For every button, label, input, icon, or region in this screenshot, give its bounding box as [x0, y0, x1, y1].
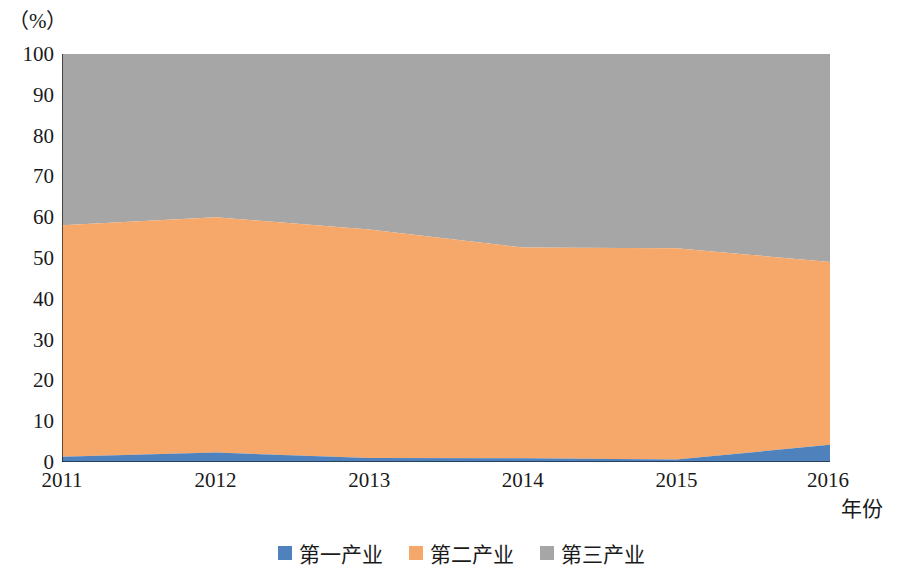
y-tick-90: 90 [33, 84, 54, 105]
x-tick-2011: 2011 [41, 470, 82, 491]
legend-item-first: 第一产业 [278, 538, 383, 568]
y-tick-80: 80 [33, 125, 54, 146]
y-tick-70: 70 [33, 166, 54, 187]
series-second [62, 217, 830, 459]
legend-swatch-icon [540, 546, 554, 560]
legend-swatch-icon [278, 546, 292, 560]
x-tick-2014: 2014 [502, 470, 544, 491]
x-tick-2012: 2012 [195, 470, 237, 491]
x-axis-tick-labels: 2011 2012 2013 2014 2015 2016 [0, 470, 922, 510]
area-series-svg [62, 54, 830, 462]
legend-item-third: 第三产业 [540, 538, 645, 568]
legend-item-second: 第二产业 [409, 538, 514, 568]
x-axis-title: 年份 [841, 492, 883, 522]
y-tick-30: 30 [33, 329, 54, 350]
legend-swatch-icon [409, 546, 423, 560]
y-tick-50: 50 [33, 248, 54, 269]
legend-label-first: 第一产业 [299, 538, 383, 568]
y-tick-100: 100 [23, 44, 55, 65]
x-tick-2013: 2013 [348, 470, 390, 491]
y-tick-40: 40 [33, 288, 54, 309]
x-tick-2015: 2015 [655, 470, 697, 491]
y-tick-20: 20 [33, 370, 54, 391]
x-tick-2016: 2016 [807, 470, 849, 491]
y-tick-60: 60 [33, 207, 54, 228]
legend-label-third: 第三产业 [561, 538, 645, 568]
legend-label-second: 第二产业 [430, 538, 514, 568]
y-tick-10: 10 [33, 411, 54, 432]
plot-area [62, 54, 830, 462]
stacked-area-chart: （%） 100 90 80 70 60 50 40 30 20 10 0 [0, 0, 922, 578]
chart-legend: 第一产业 第二产业 第三产业 [0, 538, 922, 568]
